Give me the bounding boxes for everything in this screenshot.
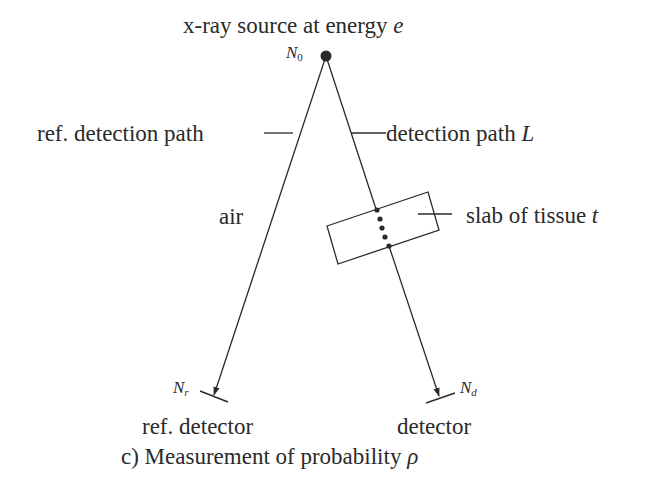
slab-label: slab of tissue t xyxy=(466,204,598,227)
slab-thickness-var: t xyxy=(592,203,598,228)
detector-bar xyxy=(426,393,455,403)
ref-detector-label: ref. detector xyxy=(142,415,253,438)
ref-detector-bar xyxy=(200,391,228,402)
detection-path-var: L xyxy=(521,121,534,146)
ref-count-label: Nr xyxy=(173,379,189,398)
det-count-symbol: N xyxy=(460,378,471,397)
caption-text: c) Measurement of probability xyxy=(121,444,401,469)
caption-probability-var: ρ xyxy=(407,444,418,469)
det-count-label: Nd xyxy=(460,379,477,398)
xray-source-dot xyxy=(321,51,332,62)
slab-label-text: slab of tissue xyxy=(466,203,586,228)
air-label: air xyxy=(219,205,243,228)
source-energy-var: e xyxy=(393,13,403,38)
diagram-canvas xyxy=(0,0,662,477)
detection-path-label-text: detection path xyxy=(386,121,516,146)
det-count-subscript: d xyxy=(471,386,477,398)
source-count-label: N0 xyxy=(286,44,303,63)
source-count-symbol: N xyxy=(286,43,297,62)
source-label: x-ray source at energy e xyxy=(183,14,404,37)
source-label-text: x-ray source at energy xyxy=(183,13,388,38)
figure-caption: c) Measurement of probability ρ xyxy=(121,445,418,468)
ref-count-symbol: N xyxy=(173,378,184,397)
source-count-subscript: 0 xyxy=(297,51,303,63)
detection-path-line-lower xyxy=(389,246,439,396)
path-dots-in-slab xyxy=(374,207,391,248)
detection-path-label: detection path L xyxy=(386,122,534,145)
ref-detection-path-label: ref. detection path xyxy=(37,122,204,145)
ref-count-subscript: r xyxy=(184,386,188,398)
detector-label: detector xyxy=(397,415,471,438)
